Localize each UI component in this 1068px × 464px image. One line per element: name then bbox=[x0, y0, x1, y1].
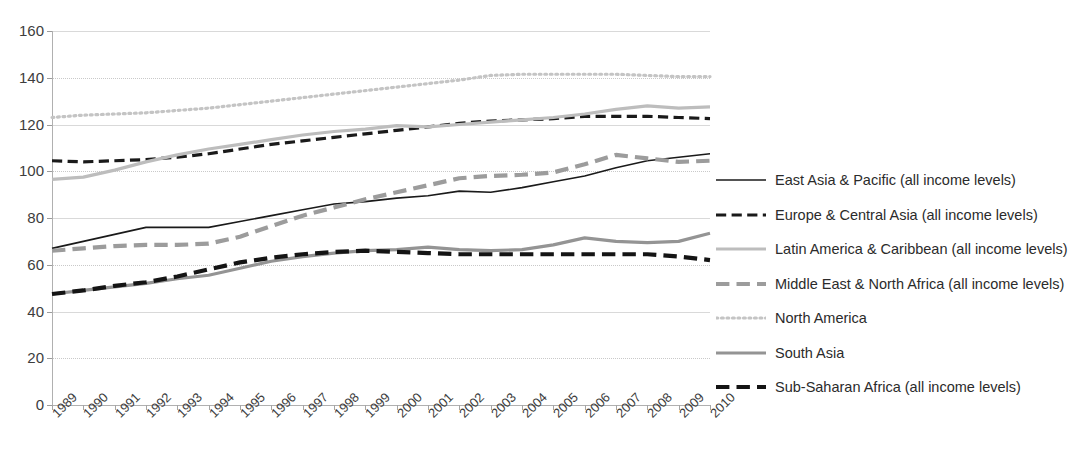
legend-item-4[interactable]: North America bbox=[716, 301, 1055, 336]
series-line-5 bbox=[52, 233, 710, 294]
legend-item-1[interactable]: Europe & Central Asia (all income levels… bbox=[716, 198, 1055, 233]
series-line-1 bbox=[52, 116, 710, 162]
legend-label-5: South Asia bbox=[775, 346, 844, 361]
legend-swatch-icon-6 bbox=[716, 380, 766, 394]
legend-label-2: Latin America & Caribbean (all income le… bbox=[775, 242, 1068, 257]
legend-label-3: Middle East & North Africa (all income l… bbox=[775, 277, 1064, 292]
legend-swatch-icon-1 bbox=[716, 208, 766, 222]
legend-swatch-icon-2 bbox=[716, 242, 766, 256]
series-lines bbox=[0, 0, 715, 464]
legend-swatch-icon-5 bbox=[716, 346, 766, 360]
legend-item-3[interactable]: Middle East & North Africa (all income l… bbox=[716, 267, 1055, 302]
series-line-0 bbox=[52, 154, 710, 249]
legend-label-0: East Asia & Pacific (all income levels) bbox=[775, 173, 1016, 188]
chart-legend: East Asia & Pacific (all income levels)E… bbox=[716, 163, 1055, 405]
legend-label-4: North America bbox=[775, 311, 867, 326]
legend-label-6: Sub-Saharan Africa (all income levels) bbox=[775, 380, 1021, 395]
series-line-6 bbox=[52, 251, 710, 294]
legend-swatch-icon-3 bbox=[716, 277, 766, 291]
legend-item-6[interactable]: Sub-Saharan Africa (all income levels) bbox=[716, 370, 1055, 405]
legend-item-5[interactable]: South Asia bbox=[716, 336, 1055, 371]
plot-area: 020406080100120140160 198919901991199219… bbox=[0, 0, 715, 464]
legend-swatch-icon-4 bbox=[716, 311, 766, 325]
legend-item-2[interactable]: Latin America & Caribbean (all income le… bbox=[716, 232, 1055, 267]
legend-item-0[interactable]: East Asia & Pacific (all income levels) bbox=[716, 163, 1055, 198]
legend-label-1: Europe & Central Asia (all income levels… bbox=[775, 208, 1038, 223]
legend-swatch-icon-0 bbox=[716, 173, 766, 187]
